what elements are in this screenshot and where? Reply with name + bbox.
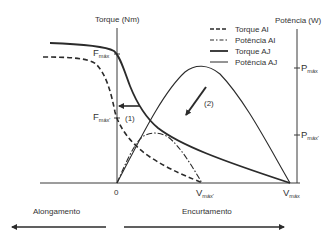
power-aj-curve (117, 66, 290, 183)
power-axis-title: Potência (W) (275, 16, 322, 25)
fmax-prime-label: Fmáx' (93, 111, 110, 123)
legend: Torque AI Potência AI Torque AJ Potência… (210, 25, 277, 67)
vmax-prime-label: Vmáx' (196, 187, 214, 199)
arrow-2 (186, 87, 206, 115)
origin-label: 0 (114, 188, 119, 197)
shortening-label: Encurtamento (182, 207, 232, 216)
arrow-2-label: (2) (204, 99, 214, 108)
arrow-1-label: (1) (125, 114, 135, 123)
torque-axis-title: Torque (Nm) (95, 15, 140, 24)
pmax-label: Pmáx (301, 62, 318, 74)
torque-ai-curve (43, 57, 203, 183)
legend-label-torque-aj: Torque AJ (235, 47, 271, 56)
pmax-prime-label: Pmáx' (301, 129, 319, 141)
legend-label-torque-ai: Torque AI (235, 25, 269, 34)
lengthening-label: Alongamento (33, 207, 81, 216)
legend-label-power-ai: Potência AI (235, 36, 275, 45)
vmax-label: Vmáx (283, 187, 300, 199)
torque-power-diagram: Torque AI Potência AI Torque AJ Potência… (0, 0, 334, 240)
legend-label-power-aj: Potência AJ (235, 58, 277, 67)
